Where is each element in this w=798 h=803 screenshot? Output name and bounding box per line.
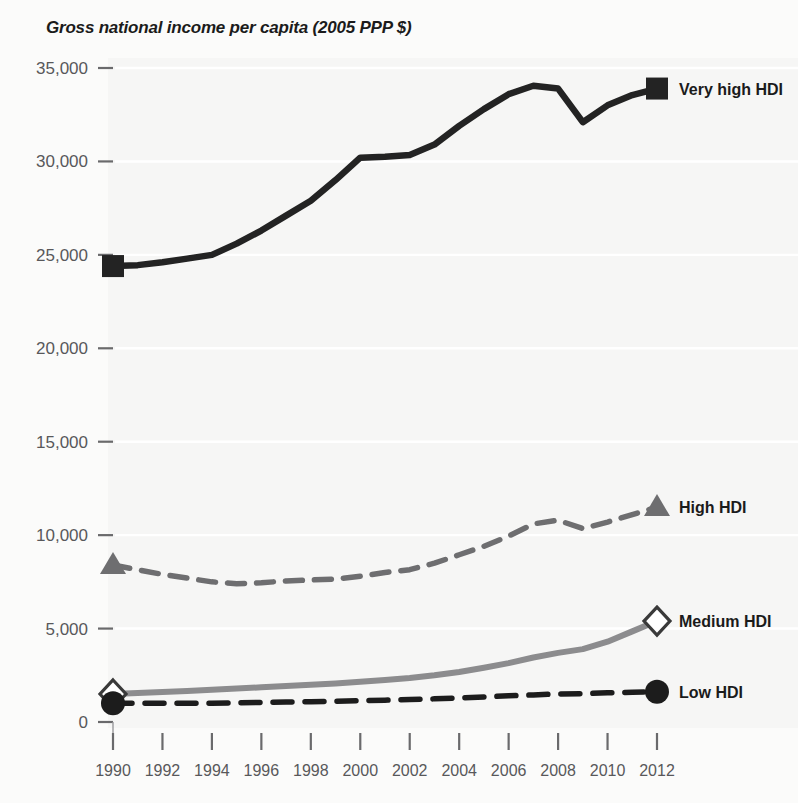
y-tick-label: 10,000 — [36, 526, 88, 545]
y-tick-label: 35,000 — [36, 59, 88, 78]
y-tick-label: 25,000 — [36, 246, 88, 265]
x-tick-label: 1998 — [293, 762, 329, 779]
x-tick-label: 2006 — [491, 762, 527, 779]
legend-label-high-hdi: High HDI — [679, 499, 747, 516]
x-tick-label: 1990 — [95, 762, 131, 779]
x-tick-label: 2012 — [639, 762, 675, 779]
series-marker-filled-circle — [101, 691, 125, 715]
x-tick-label: 1996 — [244, 762, 280, 779]
legend-label-medium-hdi: Medium HDI — [679, 613, 771, 630]
line-chart-plot: 05,00010,00015,00020,00025,00030,00035,0… — [0, 0, 798, 803]
x-tick-label: 2000 — [342, 762, 378, 779]
x-tick-label: 2008 — [540, 762, 576, 779]
legend-label-low-hdi: Low HDI — [679, 684, 743, 701]
x-tick-label: 2010 — [590, 762, 626, 779]
y-tick-label: 15,000 — [36, 433, 88, 452]
series-marker-filled-square — [646, 78, 668, 100]
series-marker-filled-square — [102, 255, 124, 277]
y-tick-label: 5,000 — [45, 620, 88, 639]
y-tick-label: 0 — [79, 713, 88, 732]
x-tick-label: 2004 — [441, 762, 477, 779]
x-tick-label: 2002 — [392, 762, 428, 779]
y-axis-labels: 05,00010,00015,00020,00025,00030,00035,0… — [36, 59, 88, 732]
x-tick-label: 1994 — [194, 762, 230, 779]
y-tick-label: 30,000 — [36, 152, 88, 171]
chart-canvas: Gross national income per capita (2005 P… — [0, 0, 798, 803]
x-axis-labels: 1990199219941996199820002002200420062008… — [95, 762, 675, 779]
x-tick-label: 1992 — [145, 762, 181, 779]
x-tick-group — [113, 733, 657, 750]
legend-label-very-high-hdi: Very high HDI — [679, 81, 783, 98]
series-marker-filled-circle — [645, 680, 669, 704]
y-tick-label: 20,000 — [36, 339, 88, 358]
